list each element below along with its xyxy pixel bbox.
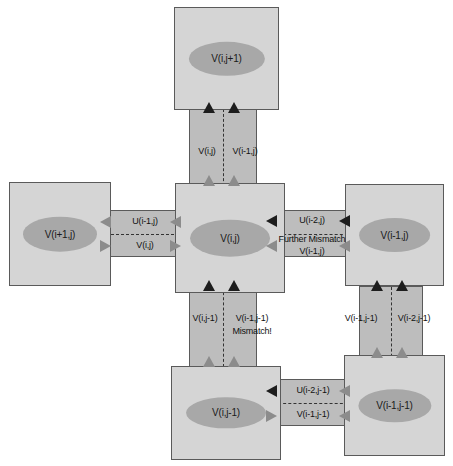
- pe-cell-label: V(i-1,j-1): [376, 400, 412, 411]
- arrow-up-br-bottom-right: [396, 347, 408, 358]
- pe-cell-label: V(i,j+1): [211, 53, 241, 64]
- label-top-vertical-right: V(i-1,j): [233, 146, 258, 156]
- pe-cell-label: V(i-1,j): [381, 230, 409, 241]
- arrow-up-bottom-left: [203, 175, 215, 186]
- pe-cell-bottom-center[interactable]: V(i,j-1): [171, 366, 281, 460]
- arrow-left-u-bottom-inner: [266, 385, 277, 397]
- label-bottom-center-right: V(i-1,j-1): [236, 313, 269, 323]
- label-right-horizontal-note: Further Mismatch: [279, 234, 346, 244]
- label-bottom-center-note: Mismatch!: [232, 326, 271, 336]
- channel-separator: [111, 234, 179, 235]
- channel-separator: [223, 287, 224, 367]
- pe-cell-ellipse: V(i,j): [190, 220, 270, 257]
- arrow-right-v-outer: [100, 240, 111, 252]
- arrow-left-u-bottom-outer: [339, 385, 350, 397]
- arrow-up-bc-top-right: [228, 280, 240, 291]
- pe-cell-label: V(i,j-1): [212, 407, 240, 418]
- label-left-horizontal-lower: V(i,j): [136, 240, 153, 250]
- arrow-up-top-left: [203, 102, 215, 113]
- pe-cell-middle-right[interactable]: V(i-1,j): [345, 184, 444, 286]
- arrow-up-br-bottom-left: [371, 347, 383, 358]
- label-right-horizontal-lower: V(i-1,j): [300, 246, 325, 256]
- pe-cell-middle-left[interactable]: V(i+1,j): [9, 182, 111, 286]
- arrow-up-bc-bottom-right: [228, 356, 240, 367]
- pe-cell-middle-center[interactable]: V(i,j): [175, 183, 285, 293]
- diagram-canvas: V(i,j+1) V(i+1,j) V(i,j) V(i-1,j) V(i,j-…: [0, 0, 453, 466]
- label-bottom-horizontal-upper: U(i-2,j-1): [297, 385, 330, 395]
- pe-cell-ellipse: V(i+1,j): [23, 217, 97, 252]
- arrow-up-bc-bottom-left: [203, 356, 215, 367]
- label-left-horizontal-upper: U(i-1,j): [132, 216, 157, 226]
- label-top-vertical-left: V(i,j): [198, 146, 215, 156]
- arrow-right-v-bottom-inner: [266, 410, 277, 422]
- pe-cell-ellipse: V(i-1,j): [359, 218, 431, 252]
- pe-cell-bottom-right[interactable]: V(i-1,j-1): [344, 355, 445, 456]
- pe-cell-top-center[interactable]: V(i,j+1): [174, 7, 279, 110]
- pe-cell-ellipse: V(i,j+1): [188, 41, 264, 75]
- channel-separator: [278, 403, 348, 404]
- pe-cell-label: V(i,j): [220, 233, 239, 244]
- label-bottom-horizontal-lower: V(i-1,j-1): [297, 409, 330, 419]
- label-bottom-right-left: V(i-1,j-1): [345, 313, 378, 323]
- channel-separator: [223, 109, 224, 191]
- arrow-up-bc-top-left: [203, 280, 215, 291]
- arrow-left-u-inner: [170, 216, 181, 228]
- label-right-horizontal-upper: U(i-2,j): [299, 215, 324, 225]
- arrow-up-br-top-right: [396, 280, 408, 291]
- arrow-left-v-bottom-outer: [339, 410, 350, 422]
- arrow-left-u-right-outer: [339, 215, 350, 227]
- pe-cell-ellipse: V(i-1,j-1): [358, 389, 431, 423]
- arrow-up-top-right: [228, 102, 240, 113]
- arrow-left-v-right-outer: [339, 240, 350, 252]
- arrow-left-u-outer: [100, 216, 111, 228]
- pe-cell-ellipse: V(i,j-1): [186, 397, 266, 428]
- pe-cell-label: V(i+1,j): [45, 228, 75, 239]
- arrow-up-bottom-right: [228, 175, 240, 186]
- label-bottom-right-right: V(i-2,j-1): [398, 313, 431, 323]
- arrow-up-br-top-left: [371, 280, 383, 291]
- arrow-right-v-inner: [170, 240, 181, 252]
- arrow-left-v-right-inner: [266, 240, 277, 252]
- label-bottom-center-left: V(i,j-1): [193, 313, 218, 323]
- arrow-left-u-right-inner: [266, 215, 277, 227]
